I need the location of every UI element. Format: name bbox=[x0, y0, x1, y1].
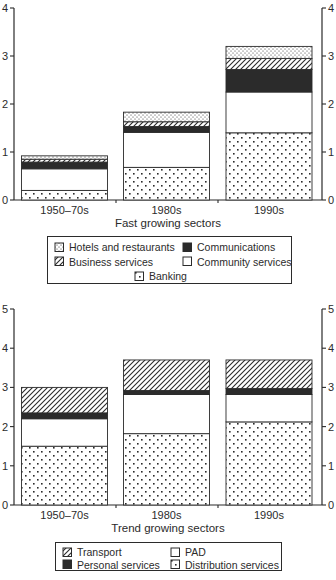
legend-label: Personal services bbox=[77, 559, 160, 571]
y-tick-label-right: 4 bbox=[328, 2, 334, 14]
x-category-label: 1980s bbox=[152, 204, 182, 216]
bar-segment-community-services-1980s bbox=[124, 132, 210, 167]
legend-swatch-pad bbox=[170, 547, 181, 558]
legend-entry-hotels-and-restaurants: Hotels and restaurants bbox=[54, 241, 175, 253]
legend-swatch-community-services bbox=[182, 256, 193, 267]
legend-entry-pad: PAD bbox=[170, 546, 206, 558]
bar-segment-hotels-and-restaurants-1990s bbox=[226, 46, 312, 58]
y-tick-label-right: 5 bbox=[328, 303, 334, 315]
legend-entry-communications: Communications bbox=[182, 241, 275, 253]
fast-growing-sectors-legend: Hotels and restaurantsCommunicationsBusi… bbox=[47, 236, 292, 284]
legend-entry-transport: Transport bbox=[62, 546, 122, 558]
legend-label: PAD bbox=[185, 546, 206, 558]
legend-swatch-business-services bbox=[54, 256, 65, 267]
y-tick-label-right: 2 bbox=[328, 421, 334, 433]
bar-segment-distribution-services-1950-70s bbox=[22, 446, 108, 505]
y-tick-label-right: 1 bbox=[328, 146, 334, 158]
fast-growing-sectors-axis-title: Fast growing sectors bbox=[0, 217, 336, 230]
trend-growing-sectors-plot: 0011223344551950–70s1980s1990s bbox=[0, 290, 336, 526]
bar-segment-hotels-and-restaurants-1950-70s bbox=[22, 156, 108, 159]
legend-label: Banking bbox=[149, 270, 187, 282]
bar-segment-banking-1980s bbox=[124, 167, 210, 200]
y-tick-label-left: 3 bbox=[2, 381, 8, 393]
legend-swatch-transport bbox=[62, 547, 73, 558]
bar-segment-communications-1950-70s bbox=[22, 162, 108, 169]
y-tick-label-right: 2 bbox=[328, 98, 334, 110]
legend-label: Communications bbox=[197, 241, 275, 253]
legend-entry-business-services: Business services bbox=[54, 256, 153, 268]
bar-segment-communications-1990s bbox=[226, 69, 312, 92]
y-tick-label-right: 3 bbox=[328, 381, 334, 393]
bar-segment-distribution-services-1980s bbox=[124, 434, 210, 505]
bar-segment-pad-1980s bbox=[124, 394, 210, 433]
bar-segment-hotels-and-restaurants-1980s bbox=[124, 112, 210, 122]
legend-swatch-distribution-services bbox=[170, 559, 181, 570]
legend-swatch-communications bbox=[182, 242, 193, 253]
bar-segment-community-services-1950-70s bbox=[22, 169, 108, 191]
x-category-label: 1950–70s bbox=[40, 204, 89, 216]
legend-swatch-personal-services bbox=[62, 559, 73, 570]
y-tick-label-left: 5 bbox=[2, 303, 8, 315]
y-tick-label-left: 1 bbox=[2, 460, 8, 472]
bar-segment-personal-services-1990s bbox=[226, 389, 312, 395]
x-category-label: 1990s bbox=[254, 509, 284, 521]
x-category-label: 1990s bbox=[254, 204, 284, 216]
legend-label: Distribution services bbox=[185, 559, 279, 571]
legend-entry-community-services: Community services bbox=[182, 256, 292, 268]
y-tick-label-left: 1 bbox=[2, 146, 8, 158]
trend-growing-sectors-legend: TransportPADPersonal servicesDistributio… bbox=[55, 542, 282, 571]
legend-swatch-banking bbox=[134, 271, 145, 282]
y-tick-label-left: 2 bbox=[2, 421, 8, 433]
legend-entry-banking: Banking bbox=[134, 270, 187, 282]
legend-label: Transport bbox=[77, 546, 122, 558]
x-category-label: 1950–70s bbox=[40, 509, 89, 521]
y-tick-label-left: 3 bbox=[2, 50, 8, 62]
legend-entry-personal-services: Personal services bbox=[62, 559, 160, 571]
y-tick-label-right: 0 bbox=[328, 499, 334, 511]
book-figure-page: 00112233441950–70s1980s1990s Fast growin… bbox=[0, 0, 336, 580]
bar-segment-banking-1990s bbox=[226, 133, 312, 200]
bar-segment-communications-1980s bbox=[124, 127, 210, 133]
legend-label: Business services bbox=[69, 256, 153, 268]
y-tick-label-right: 4 bbox=[328, 342, 334, 354]
bar-segment-distribution-services-1990s bbox=[226, 422, 312, 505]
bar-segment-personal-services-1980s bbox=[124, 391, 210, 395]
bar-segment-banking-1950-70s bbox=[22, 190, 108, 200]
legend-label: Community services bbox=[197, 256, 292, 268]
bar-segment-transport-1950-70s bbox=[22, 387, 108, 412]
trend-growing-sectors-axis-title: Trend growing sectors bbox=[0, 522, 336, 535]
y-tick-label-right: 1 bbox=[328, 460, 334, 472]
y-tick-label-right: 3 bbox=[328, 50, 334, 62]
legend-label: Hotels and restaurants bbox=[69, 241, 175, 253]
y-tick-label-left: 4 bbox=[2, 2, 8, 14]
legend-entry-distribution-services: Distribution services bbox=[170, 559, 279, 571]
bar-segment-transport-1980s bbox=[124, 360, 210, 391]
x-category-label: 1980s bbox=[152, 509, 182, 521]
bar-segment-transport-1990s bbox=[226, 360, 312, 389]
bar-segment-community-services-1990s bbox=[226, 92, 312, 133]
bar-segment-business-services-1990s bbox=[226, 58, 312, 69]
bar-segment-personal-services-1950-70s bbox=[22, 413, 108, 419]
bar-segment-business-services-1980s bbox=[124, 122, 210, 127]
bar-segment-pad-1990s bbox=[226, 394, 312, 421]
y-tick-label-left: 0 bbox=[2, 499, 8, 511]
y-tick-label-left: 2 bbox=[2, 98, 8, 110]
y-tick-label-left: 4 bbox=[2, 342, 8, 354]
legend-swatch-hotels-and-restaurants bbox=[54, 242, 65, 253]
y-tick-label-right: 0 bbox=[328, 194, 334, 206]
bar-segment-pad-1950-70s bbox=[22, 419, 108, 446]
fast-growing-sectors-plot: 00112233441950–70s1980s1990s bbox=[0, 0, 336, 216]
y-tick-label-left: 0 bbox=[2, 194, 8, 206]
